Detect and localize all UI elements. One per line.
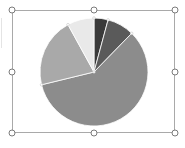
resize-handle-top-left[interactable] [9,7,16,14]
resize-handle-middle-left[interactable] [9,68,16,75]
resize-handle-middle-right[interactable] [172,68,179,75]
chart-selection-frame[interactable] [12,10,175,133]
resize-handle-bottom-left[interactable] [9,130,16,137]
resize-handle-top-right[interactable] [172,7,179,14]
resize-handle-bottom-center[interactable] [90,130,97,137]
resize-handle-bottom-right[interactable] [172,130,179,137]
resize-handle-top-center[interactable] [90,7,97,14]
